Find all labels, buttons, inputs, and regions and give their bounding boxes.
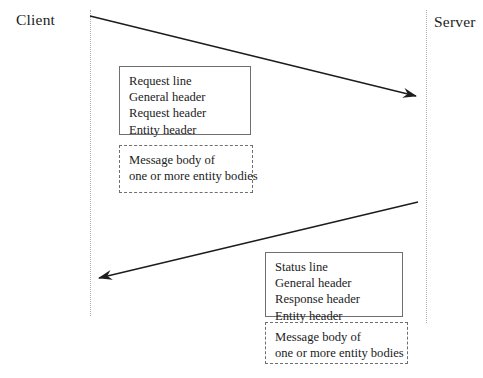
server-lifeline [426,10,427,323]
request-header-line: Entity header [129,122,250,138]
request-body-line: one or more entity bodies [129,168,252,184]
request-body-box: Message body of one or more entity bodie… [119,145,253,193]
response-body-box: Message body of one or more entity bodie… [265,322,408,364]
request-header-line: Request line [129,73,250,89]
response-header-line: Status line [275,259,402,275]
server-label: Server [434,13,476,31]
request-body-line: Message body of [129,152,252,168]
response-body-line: one or more entity bodies [275,345,407,361]
response-body-line: Message body of [275,329,407,345]
client-lifeline [90,10,91,316]
request-header-line: Request header [129,105,250,121]
request-header-line: General header [129,89,250,105]
client-label: Client [16,11,55,29]
diagram-canvas: Client Server Request line General heade… [0,0,483,378]
response-header-line: General header [275,275,402,291]
response-headers-box: Status line General header Response head… [265,252,403,317]
response-header-line: Response header [275,291,402,307]
request-headers-box: Request line General header Request head… [119,66,251,135]
